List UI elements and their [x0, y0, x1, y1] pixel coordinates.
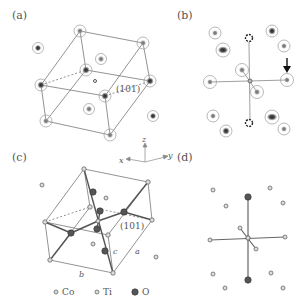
panel-label-b: (b) [177, 9, 193, 22]
ti-atom [150, 218, 154, 222]
atom-ring [251, 86, 264, 99]
o-atom [68, 230, 74, 236]
ti-atom [88, 205, 92, 209]
axis-label-y: y [167, 151, 173, 160]
ti-atom [238, 226, 242, 230]
ti-atom [208, 238, 212, 242]
legend-ti-icon [95, 290, 99, 294]
atom-ring [96, 54, 107, 65]
o-atom [94, 226, 100, 232]
co-atom [224, 204, 228, 208]
panel-a-plane-label: (101) [116, 84, 140, 94]
panel-label-d: (d) [177, 151, 193, 164]
atom-ring [220, 125, 232, 137]
lattice-label-a: a [135, 247, 140, 256]
atom-ring [137, 37, 149, 49]
co-atom [104, 196, 108, 200]
panel-b-atoms [204, 25, 294, 137]
ti-atom [254, 247, 258, 251]
legend-ti-label: Ti [103, 287, 112, 297]
o-atom [245, 194, 251, 200]
ti-atom [146, 180, 150, 184]
vacancy-dashed-bottom [246, 120, 253, 127]
legend: Co Ti O [54, 287, 149, 297]
legend-o-icon [132, 289, 138, 295]
co-atom [211, 272, 215, 276]
co-atom [268, 186, 272, 190]
atom-center [94, 80, 97, 83]
atom-ring [266, 25, 278, 37]
o-atom [97, 208, 103, 214]
ti-atom [96, 219, 100, 223]
ti-atom [43, 220, 47, 224]
atom-ring [84, 104, 95, 115]
atom-ring [80, 64, 92, 76]
co-atom [281, 286, 285, 290]
atom-ring [236, 64, 249, 77]
lattice-label-b: b [79, 270, 84, 279]
atom-center [248, 79, 252, 83]
atom-double [265, 110, 279, 124]
atom-ring [40, 115, 52, 127]
ti-atom [111, 271, 115, 275]
panel-label-a: (a) [12, 9, 27, 22]
atom-ring [278, 123, 290, 135]
ti-atom [82, 167, 86, 171]
arrow-down-icon [283, 58, 291, 73]
co-atom [40, 183, 44, 187]
axis-label-x: x [119, 156, 124, 165]
co-atom [223, 286, 227, 290]
panel-c-plane-label: (101) [120, 221, 144, 231]
atom-ring [209, 27, 221, 39]
ti-atom [48, 258, 52, 262]
legend-co-icon [54, 290, 58, 294]
axis-indicator [126, 143, 168, 162]
atom-ring [148, 111, 159, 122]
atom-double [216, 43, 230, 57]
co-atom [91, 242, 95, 246]
legend-co-label: Co [62, 287, 74, 297]
atom-ring [74, 25, 86, 37]
co-atom [281, 201, 285, 205]
axis-label-z: z [141, 135, 147, 144]
panel-a-unit-cell [41, 31, 150, 135]
panel-label-c: (c) [12, 151, 27, 164]
lattice-label-c: c [113, 247, 118, 256]
atom-ring [35, 79, 47, 91]
co-atom [269, 271, 273, 275]
vacancy-dashed-top [246, 35, 253, 42]
o-atom [90, 189, 96, 195]
atom-ring [104, 129, 116, 141]
o-atom [245, 277, 251, 283]
ti-atom [106, 233, 110, 237]
o-atom [121, 209, 127, 215]
ti-atom-center [246, 236, 250, 240]
co-atom [211, 188, 215, 192]
atom-ring [207, 110, 219, 122]
atom-ring [33, 43, 44, 54]
ti-atom [283, 235, 287, 239]
figure-canvas: (a) (b) (c) (d) (101) [0, 0, 307, 304]
o-atom [102, 248, 108, 254]
atom-ring [278, 40, 290, 52]
co-atom [154, 255, 158, 259]
atom-ring [99, 90, 111, 102]
legend-o-label: O [142, 287, 149, 297]
atom-ring [144, 75, 156, 87]
